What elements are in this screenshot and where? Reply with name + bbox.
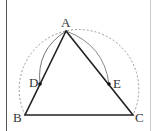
point-e [107,82,111,86]
label-e: E [113,77,121,90]
triangle-diagram [0,0,152,131]
label-c: C [135,111,144,124]
point-d [38,82,42,86]
dashed-circumcircle-arc [19,30,139,115]
label-a: A [61,16,70,29]
label-d: D [29,76,38,89]
label-b: B [13,111,22,124]
